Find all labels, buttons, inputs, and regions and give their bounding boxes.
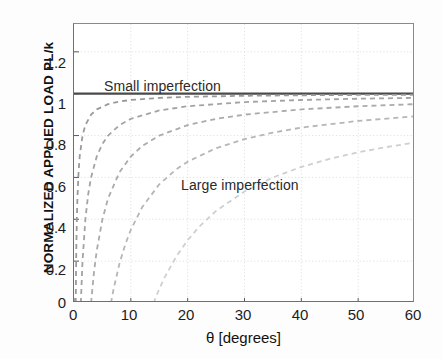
x-tick-label-30: 30 — [228, 306, 258, 323]
x-tick-label-10: 10 — [114, 306, 144, 323]
plot-area — [73, 23, 414, 302]
x-tick-label-50: 50 — [341, 306, 371, 323]
annotation-large-imperfection: Large imperfection — [181, 177, 299, 193]
x-tick-label-40: 40 — [285, 306, 315, 323]
y-tick-label-1.2: 1.2 — [26, 54, 66, 71]
x-tick-label-20: 20 — [171, 306, 201, 323]
data-curves — [74, 94, 414, 302]
series-path — [81, 98, 414, 302]
chart-figure: NORMALIZED APPLIED LOAD PL/k 1.2 1 0.8 0… — [0, 0, 442, 359]
gridlines — [74, 24, 414, 302]
x-axis-label: θ [degrees] — [73, 329, 414, 346]
x-tick-label-0: 0 — [58, 306, 88, 323]
annotation-small-imperfection: Small imperfection — [104, 78, 221, 94]
y-tick-label-0.6: 0.6 — [26, 178, 66, 195]
series-path — [111, 116, 414, 302]
plot-canvas — [74, 24, 414, 302]
y-tick-label-0.2: 0.2 — [26, 261, 66, 278]
y-tick-label-0.8: 0.8 — [26, 136, 66, 153]
y-tick-label-0.4: 0.4 — [26, 219, 66, 236]
series-path — [154, 142, 414, 302]
y-tick-label-1: 1 — [26, 95, 66, 112]
x-tick-label-60: 60 — [398, 306, 428, 323]
series-path — [91, 104, 414, 302]
